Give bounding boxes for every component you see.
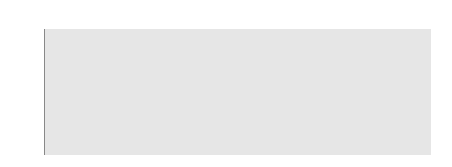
y-axis bbox=[44, 29, 45, 155]
plot-area bbox=[45, 29, 431, 155]
